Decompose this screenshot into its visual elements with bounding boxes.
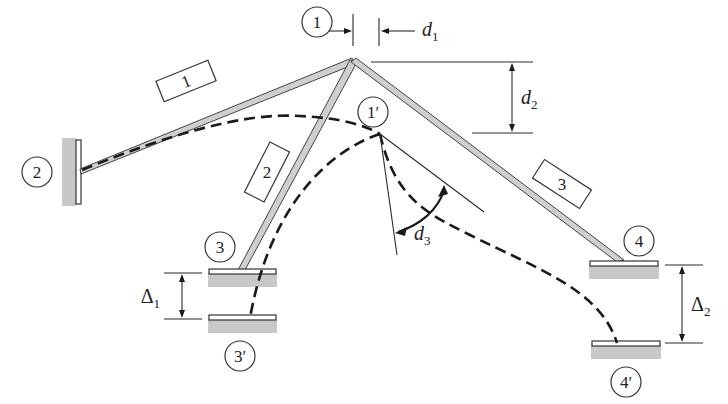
- delta2-label: Δ2: [691, 293, 710, 319]
- member-3: [351, 58, 624, 262]
- svg-text:3: 3: [216, 238, 225, 257]
- svg-text:1′: 1′: [367, 103, 379, 122]
- svg-text:1: 1: [313, 13, 322, 32]
- d3-arrowhead-bottom: [395, 227, 407, 236]
- d1-label: d1: [422, 18, 439, 44]
- node-4-prime-marker: 4′: [611, 367, 641, 397]
- fixed-support-node-2: [62, 138, 81, 206]
- frame-displacement-diagram: 1 2 3 1 2 3 4 1′ 3′ 4′ d1 d2: [0, 0, 728, 404]
- node-1-marker: 1: [302, 7, 332, 37]
- svg-text:3′: 3′: [234, 347, 246, 366]
- svg-text:4′: 4′: [620, 373, 632, 392]
- member-3-label: 3: [558, 175, 567, 194]
- d1-dimension: [318, 14, 415, 46]
- d3-arrowhead-top: [438, 185, 448, 197]
- rotation-reference-line-rotated: [380, 134, 397, 255]
- deflected-member-1: [82, 116, 380, 170]
- d3-label: d3: [414, 222, 431, 248]
- d2-dimension: [371, 62, 533, 133]
- support-node-4-prime: [591, 341, 661, 359]
- member-2-label: 2: [263, 163, 272, 182]
- node-1-prime-marker: 1′: [358, 97, 388, 127]
- node-4-marker: 4: [624, 226, 654, 256]
- svg-text:4: 4: [635, 232, 644, 251]
- node-3-marker: 3: [205, 232, 235, 262]
- member-2: [238, 60, 357, 270]
- svg-text:2: 2: [33, 163, 42, 182]
- node-2-marker: 2: [22, 157, 52, 187]
- delta1-dimension: [164, 273, 202, 319]
- member-1-tag: 1: [156, 60, 216, 101]
- d2-label: d2: [521, 86, 538, 112]
- delta1-label: Δ1: [141, 285, 160, 311]
- support-node-3-prime: [208, 315, 277, 333]
- node-3-prime-marker: 3′: [225, 341, 255, 371]
- support-node-4: [589, 261, 659, 279]
- support-node-3: [208, 269, 277, 287]
